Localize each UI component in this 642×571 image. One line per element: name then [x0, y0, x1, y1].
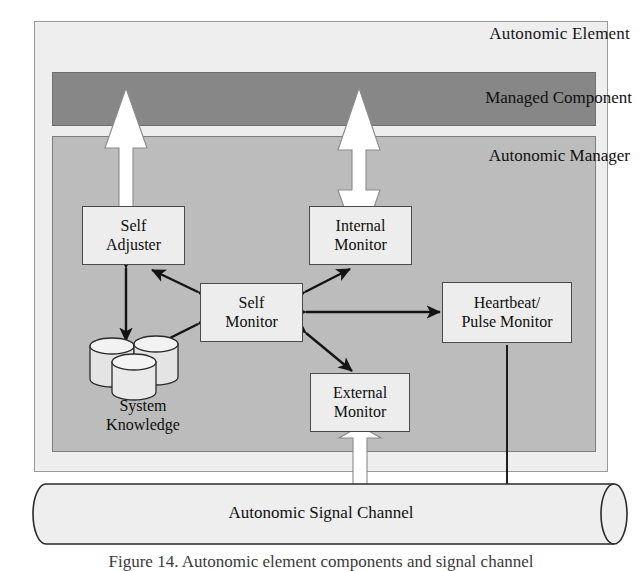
node-internal-monitor-line2: Monitor	[334, 236, 386, 254]
node-heartbeat-line2: Pulse Monitor	[461, 313, 552, 331]
node-heartbeat-line1: Heartbeat/	[461, 294, 552, 312]
node-internal-monitor-line1: Internal	[334, 217, 386, 235]
node-self-adjuster-line2: Adjuster	[106, 236, 161, 254]
diagram-canvas: Autonomic Element Managed Component Auto…	[0, 0, 642, 571]
node-self-monitor-line1: Self	[225, 294, 277, 312]
node-internal-monitor[interactable]: Internal Monitor	[309, 206, 412, 265]
database-cylinder-icon	[86, 334, 198, 404]
node-self-adjuster-line1: Self	[106, 217, 161, 235]
node-system-knowledge-line1: System	[119, 397, 166, 414]
node-self-adjuster[interactable]: Self Adjuster	[82, 206, 185, 265]
node-external-monitor[interactable]: External Monitor	[310, 373, 410, 432]
node-system-knowledge[interactable]: System Knowledge	[84, 396, 202, 434]
node-self-monitor-line2: Monitor	[225, 313, 277, 331]
white-arrow-adjuster-to-managed	[105, 88, 147, 208]
autonomic-signal-channel-label: Autonomic Signal Channel	[0, 503, 642, 523]
figure-caption: Figure 14. Autonomic element components …	[0, 552, 642, 571]
node-system-knowledge-line2: Knowledge	[106, 416, 180, 433]
node-heartbeat-pulse-monitor[interactable]: Heartbeat/ Pulse Monitor	[442, 282, 572, 343]
node-external-monitor-line1: External	[333, 384, 387, 402]
node-self-monitor[interactable]: Self Monitor	[200, 283, 303, 342]
node-external-monitor-line2: Monitor	[333, 403, 387, 421]
